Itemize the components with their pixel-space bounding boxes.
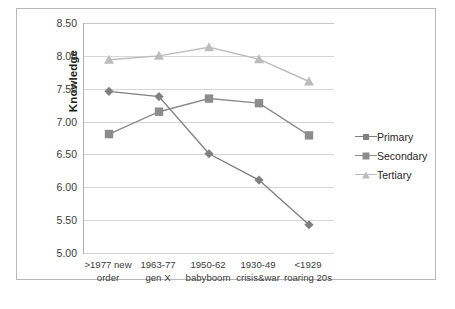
x-axis-tick-labels: >1977 neworder1963-77gen X1950-62babyboo…	[83, 259, 333, 299]
legend-square-icon	[355, 149, 377, 163]
y-axis-tick: 6.50	[35, 148, 77, 160]
legend-item-tertiary[interactable]: Tertiary	[355, 165, 437, 184]
x-axis-tick: 1950-62babyboom	[186, 259, 231, 284]
legend-item-primary[interactable]: Primary	[355, 127, 437, 146]
x-axis-tick: <1929roaring 20s	[284, 259, 332, 284]
y-axis-tick: 5.50	[35, 214, 77, 226]
legend-triangle-icon	[355, 168, 377, 182]
y-axis-tick: 5.00	[35, 247, 77, 259]
y-axis-tick: 8.50	[35, 17, 77, 29]
legend-label: Tertiary	[377, 169, 411, 181]
y-axis-tick: 8.00	[35, 50, 77, 62]
data-point-secondary-0	[105, 130, 113, 138]
y-axis-tick: 7.50	[35, 83, 77, 95]
data-point-tertiary-2	[204, 42, 214, 51]
chart-frame: Knowledge 8.508.007.507.006.506.005.505.…	[16, 8, 436, 280]
data-point-tertiary-4	[304, 76, 314, 85]
y-axis-tick: 6.00	[35, 181, 77, 193]
y-axis-tick: 7.00	[35, 116, 77, 128]
data-point-secondary-2	[205, 94, 213, 102]
data-point-secondary-4	[305, 131, 313, 139]
gridline	[84, 253, 334, 254]
data-point-secondary-1	[155, 108, 163, 116]
series-plot	[84, 23, 334, 253]
legend-diamond-icon	[355, 130, 377, 144]
legend-label: Primary	[377, 131, 413, 143]
data-point-primary-0	[104, 87, 113, 96]
series-line-tertiary	[109, 47, 309, 81]
x-axis-tick: 1930-49crisis&war	[236, 259, 280, 284]
plot-area	[83, 23, 334, 254]
legend-item-secondary[interactable]: Secondary	[355, 146, 437, 165]
chart-legend: PrimarySecondaryTertiary	[355, 127, 437, 184]
legend-label: Secondary	[377, 150, 427, 162]
x-axis-tick: >1977 neworder	[84, 259, 131, 284]
y-axis-tick-labels: 8.508.007.507.006.506.005.505.00	[35, 9, 77, 281]
data-point-secondary-3	[255, 99, 263, 107]
series-line-secondary	[109, 99, 309, 136]
x-axis-tick: 1963-77gen X	[140, 259, 175, 284]
